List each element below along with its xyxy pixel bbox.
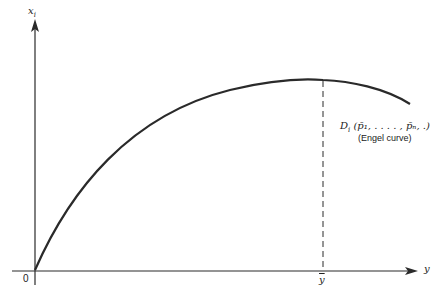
y-axis-label: xi — [28, 6, 36, 19]
origin-label: 0 — [23, 274, 29, 284]
engel-curve-diagram: xi y 0 y Di (p̄₁, . . . . , p̄ₙ, .) (Eng… — [0, 0, 435, 306]
diagram-graphics — [0, 0, 435, 306]
y-bar-label: y — [319, 275, 325, 285]
engel-curve — [35, 79, 410, 270]
x-axis-label: y — [424, 264, 430, 274]
engel-curve-label: (Engel curve) — [358, 134, 412, 143]
